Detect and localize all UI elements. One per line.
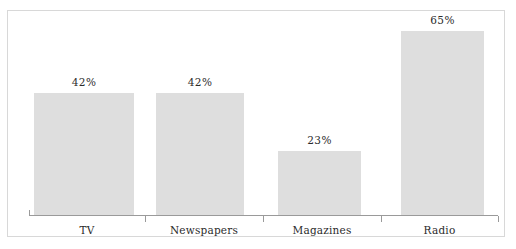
value-label-newspapers: 42% bbox=[156, 76, 244, 88]
category-label-magazines: Magazines bbox=[263, 224, 381, 236]
bar-radio bbox=[401, 31, 484, 216]
bar-magazines bbox=[278, 151, 361, 216]
value-label-magazines: 23% bbox=[278, 134, 361, 146]
bar-tv bbox=[34, 93, 134, 216]
axis-tick-3 bbox=[381, 216, 382, 222]
axis-tick-start bbox=[29, 210, 30, 216]
bar-chart: 42% 42% 23% 65% TV Newspapers Magazines … bbox=[0, 0, 516, 249]
axis-tick-1 bbox=[145, 216, 146, 222]
bar-newspapers bbox=[156, 93, 244, 216]
axis-tick-end bbox=[498, 216, 499, 222]
category-label-radio: Radio bbox=[381, 224, 498, 236]
plot-area: 42% 42% 23% 65% TV Newspapers Magazines … bbox=[8, 11, 506, 238]
value-label-tv: 42% bbox=[34, 76, 134, 88]
category-label-tv: TV bbox=[29, 224, 145, 236]
value-label-radio: 65% bbox=[401, 14, 484, 26]
category-label-newspapers: Newspapers bbox=[145, 224, 263, 236]
chart-frame: 42% 42% 23% 65% TV Newspapers Magazines … bbox=[7, 10, 505, 237]
axis-tick-2 bbox=[263, 216, 264, 222]
